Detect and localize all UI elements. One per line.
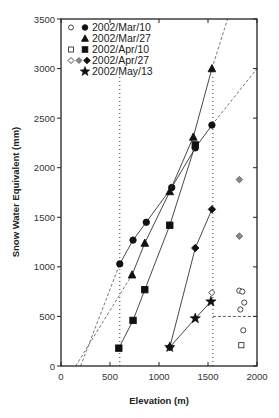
y-tick-label: 1000 [34,261,55,272]
dashed-extrapolation-line [76,275,132,366]
legend: 2002/Mar/102002/Mar/272002/Apr/102002/Ap… [68,21,153,77]
y-tick-label: 3500 [34,14,55,25]
triangle-marker [128,271,136,278]
x-tick-label: 500 [102,371,118,382]
diamond-marker [209,290,215,296]
plot-frame [61,19,257,366]
legend-label: 2002/May/13 [92,65,153,77]
circle-marker [130,237,136,243]
circle-marker [238,307,243,312]
y-axis-label: Snow Water Equivalent (mm) [10,127,21,258]
y-tick-label: 2000 [34,162,55,173]
diamond-marker [192,244,199,251]
square-marker [130,317,136,323]
circle-marker [209,122,215,128]
circle-marker [69,25,74,30]
triangle-marker [208,65,216,72]
series-2002-mar-27 [128,65,215,278]
x-tick-label: 1500 [197,371,218,382]
diamond-marker [236,233,243,240]
y-tick-label: 500 [39,311,55,322]
circle-marker [242,300,247,305]
triangle-marker [141,239,149,246]
diamond-marker [236,176,243,183]
square-marker [142,286,148,292]
y-tick-label: 2500 [34,113,55,124]
diamond-marker [68,58,74,64]
square-marker [116,345,122,351]
circle-marker [241,328,246,333]
x-tick-label: 2000 [246,371,267,382]
x-tick-label: 0 [58,371,63,382]
y-tick-label: 1500 [34,212,55,223]
x-axis-label: Elevation (m) [129,395,189,406]
dashed-extrapolation-line [212,69,257,126]
star-marker [80,67,90,76]
circle-marker [143,219,149,225]
dashed-extrapolation-line [81,264,120,366]
series-line [170,209,212,347]
series-2002-apr-27 [166,176,243,351]
circle-marker [240,289,245,294]
diamond-marker [84,57,91,64]
series-2002-may-13 [165,296,216,351]
diamond-marker [76,58,82,64]
y-tick-label: 3000 [34,63,55,74]
square-marker [82,47,88,53]
triangle-marker [82,35,89,41]
snow-water-equivalent-chart: 0500100015002000050010001500200025003000… [0,0,279,418]
diamond-marker [208,206,215,213]
circle-marker [117,261,123,267]
y-tick-label: 0 [50,361,55,372]
dashed-extrapolation-line [212,19,228,69]
circle-marker [82,25,88,31]
square-marker [239,343,244,348]
square-marker [192,142,198,148]
legend-item: 2002/May/13 [80,65,153,77]
square-marker [69,47,74,52]
square-marker [167,222,173,228]
triangle-marker [190,133,198,140]
star-marker [206,296,216,306]
x-tick-label: 1000 [148,371,169,382]
